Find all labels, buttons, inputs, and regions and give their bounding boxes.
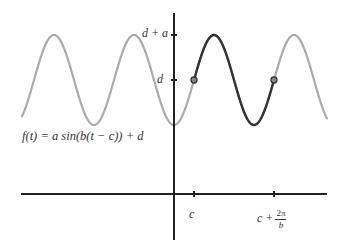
sine-curve-highlighted-period xyxy=(194,35,274,125)
marker-point-end xyxy=(271,77,277,83)
fraction-numerator: 2π xyxy=(275,209,286,220)
x-label-c: c xyxy=(189,208,194,220)
x-label-c-plus-period: c +2πb xyxy=(257,209,286,230)
fraction-2pi-over-b: 2πb xyxy=(275,209,286,230)
y-label-max: d + a xyxy=(142,27,168,39)
sinusoid-diagram xyxy=(0,0,349,246)
x-label-c-plus-text: c + xyxy=(257,211,273,225)
marker-point-start xyxy=(191,77,197,83)
formula-label: f(t) = a sin(b(t − c)) + d xyxy=(22,130,143,143)
y-label-mid: d xyxy=(157,73,163,85)
fraction-denominator: b xyxy=(279,220,284,230)
